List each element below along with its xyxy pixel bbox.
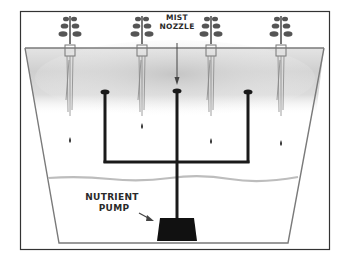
nozzle-icon (244, 90, 253, 95)
pump-label-line2: PUMP (80, 203, 144, 214)
pump-label-line1: NUTRIENT (80, 192, 144, 203)
nutrient-pump-label: NUTRIENT PUMP (80, 192, 144, 214)
nozzle-icon (101, 90, 110, 95)
nutrient-pump (157, 218, 197, 241)
aeroponics-diagram: MIST NOZZLE NUTRIENT PUMP (0, 0, 346, 263)
mist-label-line2: NOZZLE (147, 22, 207, 31)
mist-label-line1: MIST (147, 13, 207, 22)
mist-nozzle-label: MIST NOZZLE (147, 13, 207, 31)
nozzle-icon (173, 89, 182, 94)
diagram-canvas (0, 0, 346, 263)
